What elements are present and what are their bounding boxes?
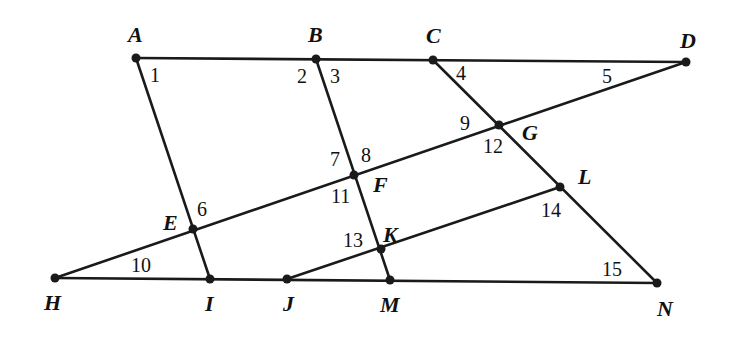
geometry-diagram: ABCDGFELKHIJMN 123456789101112131415 bbox=[0, 0, 732, 337]
angle-label-2: 2 bbox=[297, 65, 307, 87]
point-label-d: D bbox=[679, 28, 696, 53]
point-label-h: H bbox=[43, 290, 62, 315]
point-g bbox=[495, 121, 504, 130]
angle-label-13: 13 bbox=[343, 229, 363, 251]
point-h bbox=[51, 274, 60, 283]
point-i bbox=[206, 275, 215, 284]
point-label-b: B bbox=[307, 22, 323, 47]
point-label-l: L bbox=[577, 164, 591, 189]
angle-label-7: 7 bbox=[330, 148, 340, 170]
point-label-k: K bbox=[382, 222, 399, 247]
point-label-f: F bbox=[372, 172, 388, 197]
angle-label-12: 12 bbox=[483, 135, 503, 157]
angle-label-3: 3 bbox=[330, 65, 340, 87]
point-label-n: N bbox=[656, 296, 674, 321]
point-label-c: C bbox=[426, 23, 441, 48]
angle-labels: 123456789101112131415 bbox=[131, 62, 622, 280]
angle-label-5: 5 bbox=[602, 65, 612, 87]
point-l bbox=[556, 183, 565, 192]
angle-label-14: 14 bbox=[541, 199, 561, 221]
segment-cn bbox=[433, 60, 657, 283]
angle-label-11: 11 bbox=[331, 185, 350, 207]
point-d bbox=[682, 58, 691, 67]
point-label-g: G bbox=[522, 120, 538, 145]
angle-label-8: 8 bbox=[361, 144, 371, 166]
segment-jl bbox=[287, 187, 560, 279]
segment-ad bbox=[136, 58, 686, 62]
point-label-i: I bbox=[204, 291, 215, 316]
point-m bbox=[386, 276, 395, 285]
point-label-a: A bbox=[126, 22, 143, 47]
point-n bbox=[653, 279, 662, 288]
point-b bbox=[312, 55, 321, 64]
angle-label-4: 4 bbox=[456, 62, 466, 84]
segment-hn bbox=[55, 278, 657, 283]
point-label-e: E bbox=[162, 210, 178, 235]
point-e bbox=[189, 225, 198, 234]
point-a bbox=[132, 54, 141, 63]
angle-label-15: 15 bbox=[602, 258, 622, 280]
point-c bbox=[429, 56, 438, 65]
angle-label-6: 6 bbox=[197, 198, 207, 220]
point-label-j: J bbox=[282, 291, 295, 316]
angle-label-9: 9 bbox=[460, 112, 470, 134]
angle-label-10: 10 bbox=[131, 254, 151, 276]
point-j bbox=[283, 275, 292, 284]
angle-label-1: 1 bbox=[150, 64, 160, 86]
point-f bbox=[350, 171, 359, 180]
point-label-m: M bbox=[379, 292, 401, 317]
